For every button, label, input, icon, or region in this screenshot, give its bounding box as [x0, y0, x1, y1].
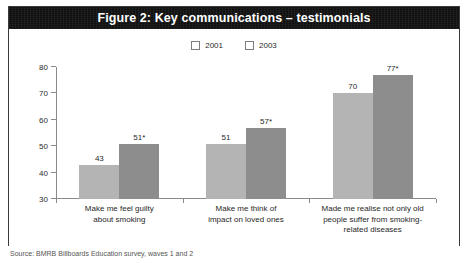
figure-title-bar: Figure 2: Key communications – testimoni… [9, 7, 459, 29]
category-label-line: people suffer from smoking- [309, 215, 436, 226]
y-tick-label-60: 60 [39, 115, 48, 124]
bar-2001-3[interactable]: 70 [333, 93, 373, 199]
legend-label-2003: 2003 [259, 41, 277, 50]
category-label-2: Make me think ofimpact on loved ones [183, 204, 310, 225]
bar-2001-1[interactable]: 43 [79, 165, 119, 199]
bar-value-label: 70 [348, 82, 357, 91]
category-label-line: Make me feel guilty [56, 204, 183, 215]
x-tick-1 [183, 199, 184, 203]
legend-swatch-2003-icon [245, 41, 254, 50]
category-label-3: Made me realise not only oldpeople suffe… [309, 204, 436, 236]
bar-group-1: 4351* [56, 67, 183, 199]
bar-value-label: 43 [95, 154, 104, 163]
y-tick-label-80: 80 [39, 63, 48, 72]
legend-item-2003[interactable]: 2003 [245, 41, 277, 50]
category-label-line: Made me realise not only old [309, 204, 436, 215]
y-tick-label-30: 30 [39, 195, 48, 204]
bar-value-label: 51* [133, 133, 145, 142]
category-label-line: impact on loved ones [183, 215, 310, 226]
bar-2001-2[interactable]: 51 [206, 144, 246, 199]
bar-value-label: 51 [222, 133, 231, 142]
y-tick-label-40: 40 [39, 168, 48, 177]
y-tick-label-70: 70 [39, 89, 48, 98]
x-tick-2 [309, 199, 310, 203]
x-axis-category-labels: Make me feel guiltyabout smokingMake me … [56, 204, 436, 244]
bar-2003-2[interactable]: 57* [246, 128, 286, 199]
chart-panel: 2001 2003 304050607080 4351*5157*7077* M… [9, 29, 459, 246]
bar-2003-1[interactable]: 51* [119, 144, 159, 199]
category-label-line: Make me think of [183, 204, 310, 215]
legend-swatch-2001-icon [191, 41, 200, 50]
bar-value-label: 57* [260, 117, 272, 126]
x-tick-3 [436, 199, 437, 203]
plot-area: 304050607080 4351*5157*7077* [56, 67, 436, 199]
bar-group-2: 5157* [183, 67, 310, 199]
category-label-line: related diseases [309, 225, 436, 236]
figure-source-note: Source: BMRB Billboards Education survey… [10, 250, 460, 260]
legend-item-2001[interactable]: 2001 [191, 41, 223, 50]
figure-container: Figure 2: Key communications – testimoni… [8, 6, 460, 246]
legend-label-2001: 2001 [205, 41, 223, 50]
category-label-1: Make me feel guiltyabout smoking [56, 204, 183, 225]
page-title: Figure 2: Key communications – testimoni… [97, 11, 370, 25]
x-tick-0 [56, 199, 57, 203]
bar-group-3: 7077* [309, 67, 436, 199]
category-label-line: about smoking [56, 215, 183, 226]
y-tick-label-50: 50 [39, 142, 48, 151]
bar-groups: 4351*5157*7077* [56, 67, 436, 199]
bar-value-label: 77* [387, 64, 399, 73]
chart-legend: 2001 2003 [9, 41, 459, 50]
bar-2003-3[interactable]: 77* [373, 75, 413, 199]
